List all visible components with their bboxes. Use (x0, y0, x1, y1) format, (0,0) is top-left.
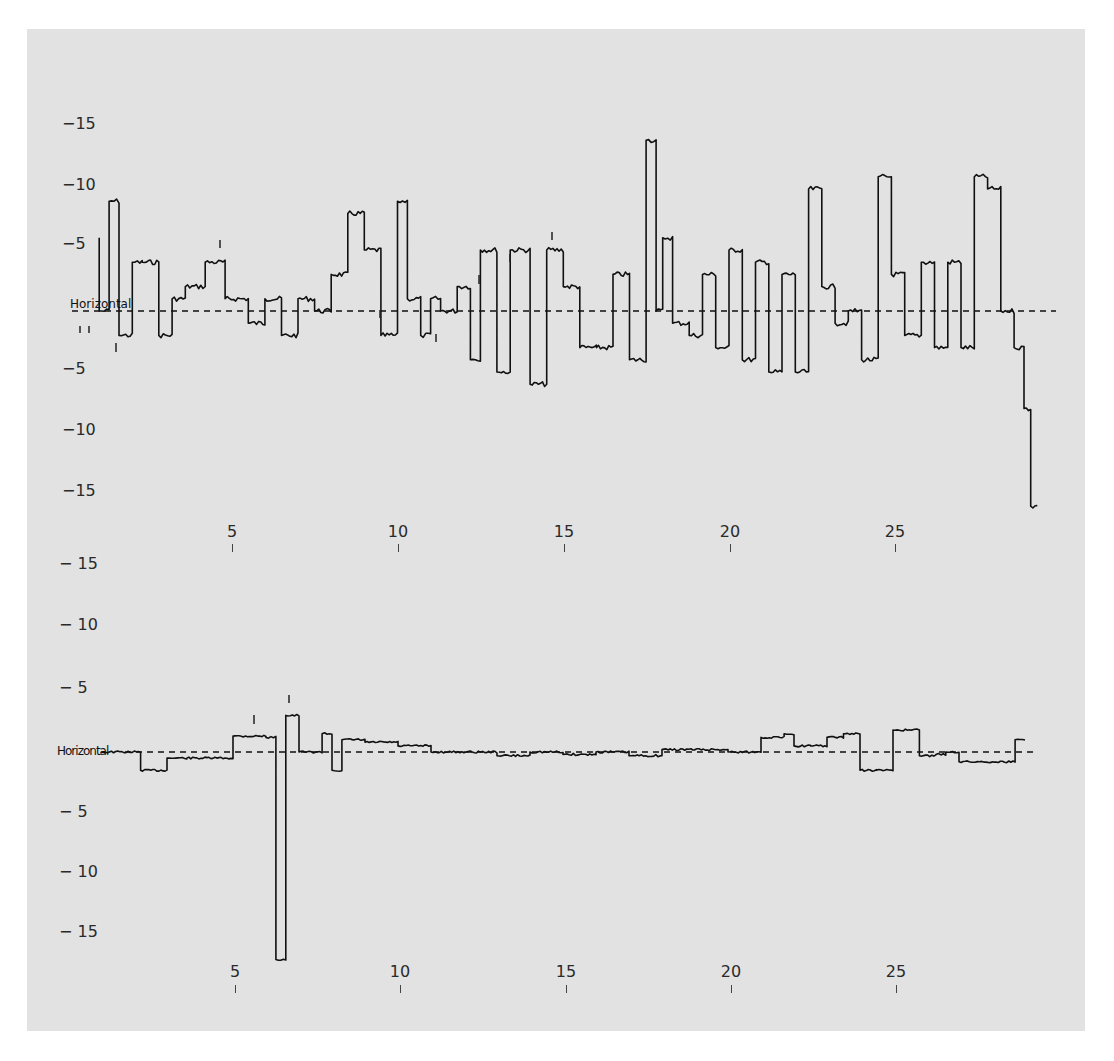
chart-traces (0, 0, 1114, 1061)
bottom-event-markers (254, 695, 289, 724)
top-trace-line (99, 140, 1037, 508)
